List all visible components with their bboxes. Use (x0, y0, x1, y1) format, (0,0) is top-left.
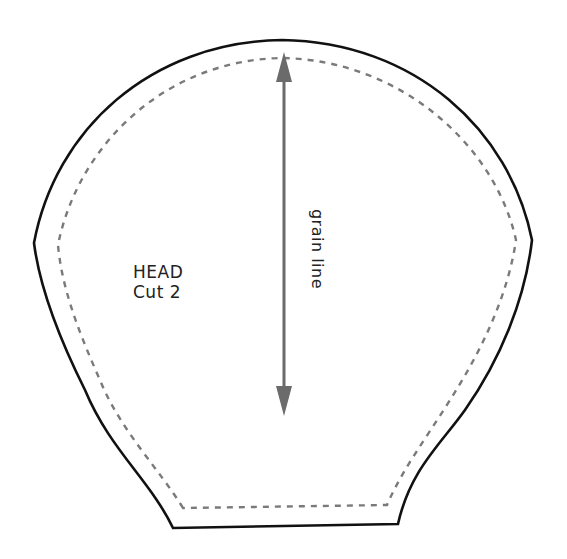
seam-line (58, 58, 516, 508)
arrow-head-up-icon (276, 52, 292, 82)
arrow-head-down-icon (276, 386, 292, 416)
head-pattern-piece (0, 0, 567, 559)
grain-line-label: grain line (308, 209, 327, 289)
cut-instruction: Cut 2 (133, 282, 183, 302)
grain-line-arrow (276, 52, 292, 416)
piece-label: HEAD Cut 2 (133, 262, 183, 302)
piece-name: HEAD (133, 262, 183, 282)
